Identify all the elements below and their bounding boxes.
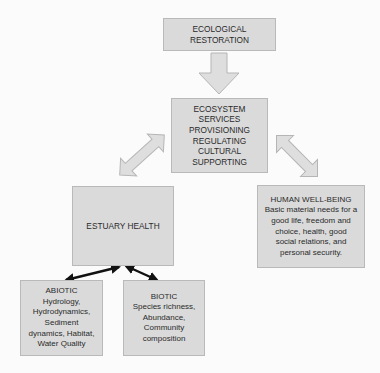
node-label-line: BIOTIC	[151, 292, 178, 303]
node-ecosystem-services: ECOSYSTEM SERVICES PROVISIONING REGULATI…	[171, 98, 268, 173]
node-label-line: dynamics, Habitat,	[29, 329, 95, 340]
node-label-line: Water Quality	[37, 339, 85, 350]
node-label-line: RESTORATION	[190, 35, 249, 46]
node-label-line: Community	[144, 323, 184, 334]
node-label-line: Sediment	[45, 318, 79, 329]
double-arrow-estuary-abiotic-icon	[66, 267, 119, 280]
node-label-line: SUPPORTING	[192, 157, 247, 168]
node-label-line: SERVICES	[199, 114, 241, 125]
node-label-line: Basic material needs for a	[265, 205, 358, 216]
node-label-line: good life, freedom and	[271, 216, 351, 227]
double-block-arrow-right-icon	[268, 127, 326, 185]
node-label-line: Abundance,	[143, 313, 186, 324]
double-arrow-estuary-biotic-icon	[126, 266, 157, 280]
node-label-line: ABIOTIC	[45, 286, 77, 297]
node-ecological-restoration: ECOLOGICAL RESTORATION	[163, 18, 276, 51]
node-label-line: REGULATING	[193, 136, 246, 147]
node-biotic: BIOTIC Species richness, Abundance, Comm…	[123, 280, 205, 356]
node-label-line: ECOSYSTEM	[193, 104, 245, 115]
node-label-line: PROVISIONING	[189, 125, 250, 136]
double-block-arrow-left-icon	[112, 126, 173, 184]
node-human-well-being: HUMAN WELL-BEING Basic material needs fo…	[257, 185, 365, 268]
node-label-line: personal security.	[280, 248, 342, 259]
node-label-line: ESTUARY HEALTH	[86, 221, 159, 232]
node-label-line: composition	[143, 334, 186, 345]
node-label-line: ECOLOGICAL	[193, 24, 247, 35]
node-abiotic: ABIOTIC Hydrology, Hydrodynamics, Sedime…	[20, 280, 103, 356]
node-label-line: social relations, and	[276, 237, 347, 248]
node-estuary-health: ESTUARY HEALTH	[72, 186, 174, 266]
node-label-line: CULTURAL	[198, 146, 241, 157]
node-label-line: HUMAN WELL-BEING	[271, 195, 352, 206]
node-label-line: Species richness,	[133, 302, 196, 313]
block-arrow-down-icon	[199, 53, 239, 94]
node-label-line: Hydrodynamics,	[33, 307, 90, 318]
node-label-line: Hydrology,	[43, 297, 81, 308]
node-label-line: choice, health, good	[275, 227, 347, 238]
